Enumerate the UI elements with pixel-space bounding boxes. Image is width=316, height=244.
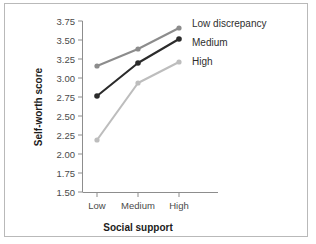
x-axis-title: Social support — [103, 222, 173, 233]
y-tick-label: 1.75 — [57, 168, 76, 179]
data-point — [94, 93, 100, 99]
x-tick-label: Medium — [121, 200, 155, 211]
y-tick-label: 3.25 — [57, 54, 76, 65]
data-point — [176, 25, 181, 30]
legend-label-high: High — [192, 56, 213, 67]
legend-label-low-discrepancy: Low discrepancy — [192, 18, 266, 29]
data-point — [135, 60, 141, 66]
x-tick-label: Low — [88, 200, 106, 211]
y-tick-label: 2.50 — [57, 111, 76, 122]
series-high — [94, 59, 181, 142]
series-line — [97, 62, 179, 140]
chart-legend: Low discrepancy Medium High — [192, 18, 266, 67]
data-point — [135, 46, 140, 51]
y-tick-label: 3.50 — [57, 35, 76, 46]
data-point — [176, 36, 182, 42]
data-point — [94, 63, 99, 68]
y-tick-label: 3.75 — [57, 16, 76, 27]
data-point — [94, 137, 99, 142]
chart-figure: 3.75 3.50 3.25 3.00 2.75 2.50 2.25 2.00 … — [0, 0, 316, 244]
y-tick-label: 1.50 — [57, 187, 76, 198]
x-axis-ticks — [97, 193, 179, 198]
y-tick-label: 3.00 — [57, 73, 76, 84]
y-axis-ticks — [78, 21, 83, 192]
y-tick-label: 2.00 — [57, 149, 76, 160]
x-axis-tick-labels: Low Medium High — [88, 200, 188, 211]
chart-canvas: 3.75 3.50 3.25 3.00 2.75 2.50 2.25 2.00 … — [0, 0, 316, 244]
y-tick-label: 2.25 — [57, 130, 76, 141]
data-point — [135, 80, 140, 85]
y-axis-tick-labels: 3.75 3.50 3.25 3.00 2.75 2.50 2.25 2.00 … — [57, 16, 76, 198]
legend-label-medium: Medium — [192, 37, 228, 48]
data-point — [176, 59, 181, 64]
x-tick-label: High — [169, 200, 189, 211]
y-tick-label: 2.75 — [57, 92, 76, 103]
y-axis-title: Self-worth score — [33, 67, 44, 146]
